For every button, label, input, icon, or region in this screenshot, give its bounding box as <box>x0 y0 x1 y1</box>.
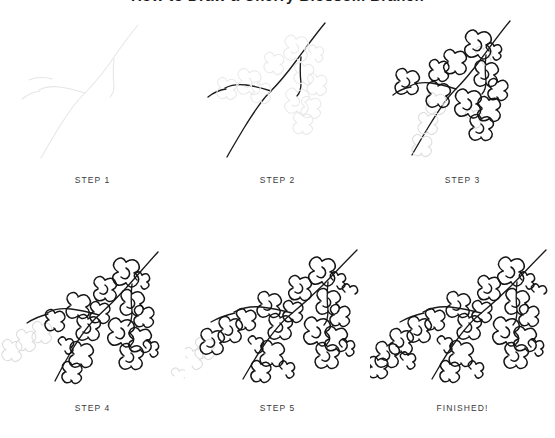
step-3-illustration <box>370 7 555 170</box>
step-1-caption: STEP 1 <box>0 175 185 185</box>
step-6-illustration <box>370 236 555 399</box>
step-5-illustration <box>185 236 370 399</box>
step-panel-2: STEP 2 <box>185 7 370 223</box>
step-panel-6: FINISHED! <box>370 223 555 438</box>
step-4-caption: STEP 4 <box>0 403 185 413</box>
step-2-caption: STEP 2 <box>185 175 370 185</box>
page-title: How to Draw a Cherry Blossom Branch <box>0 0 555 4</box>
page-title-crop: How to Draw a Cherry Blossom Branch <box>0 0 555 7</box>
flowers-inked <box>200 256 358 382</box>
step-panel-4: STEP 4 <box>0 223 185 438</box>
branch-guide-lines <box>22 25 138 158</box>
step-5-caption: STEP 5 <box>185 403 370 413</box>
step-6-caption: FINISHED! <box>370 403 555 413</box>
step-4-illustration <box>0 236 185 399</box>
step-panel-1: STEP 1 <box>0 7 185 223</box>
step-1-illustration <box>0 7 185 170</box>
step-3-caption: STEP 3 <box>370 175 555 185</box>
step-2-illustration <box>185 7 370 170</box>
step-panel-5: STEP 5 <box>185 223 370 438</box>
flowers-inked <box>45 257 159 383</box>
tutorial-sheet: How to Draw a Cherry Blossom Branch STEP… <box>0 0 555 438</box>
step-panel-3: STEP 3 <box>370 7 555 223</box>
steps-grid: STEP 1 <box>0 7 555 438</box>
